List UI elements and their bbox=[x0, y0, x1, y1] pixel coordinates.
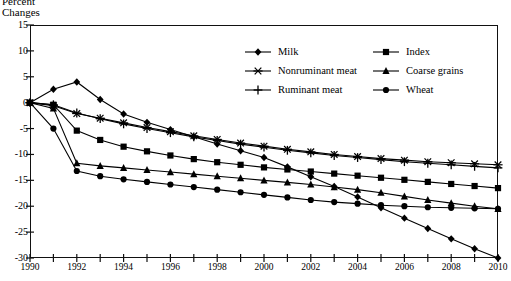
legend-label: Index bbox=[406, 47, 430, 57]
legend-label: Wheat bbox=[406, 85, 433, 95]
legend-item-milk: Milk bbox=[243, 42, 357, 61]
legend-label: Coarse grains bbox=[406, 66, 463, 76]
plus-icon bbox=[243, 84, 273, 96]
legend-item-index: Index bbox=[371, 42, 463, 61]
legend-item-coarse-grains: Coarse grains bbox=[371, 61, 463, 80]
chart-figure: Percent Changes 151050-5-10-15-20-25-30 … bbox=[0, 0, 511, 281]
diamond-icon bbox=[243, 46, 273, 58]
legend-column-2: IndexCoarse grainsWheat bbox=[371, 42, 463, 99]
legend-column-1: MilkNonruminant meatRuminant meat bbox=[243, 42, 357, 99]
circle-icon bbox=[371, 84, 401, 96]
legend-label: Milk bbox=[278, 47, 298, 57]
triangle-icon bbox=[371, 65, 401, 77]
legend-item-wheat: Wheat bbox=[371, 80, 463, 99]
square-icon bbox=[371, 46, 401, 58]
legend-label: Ruminant meat bbox=[278, 85, 342, 95]
legend-label: Nonruminant meat bbox=[278, 66, 357, 76]
asterisk-icon bbox=[243, 65, 273, 77]
legend-item-ruminant-meat: Ruminant meat bbox=[243, 80, 357, 99]
legend-item-nonruminant-meat: Nonruminant meat bbox=[243, 61, 357, 80]
chart-legend: MilkNonruminant meatRuminant meat IndexC… bbox=[243, 42, 465, 100]
